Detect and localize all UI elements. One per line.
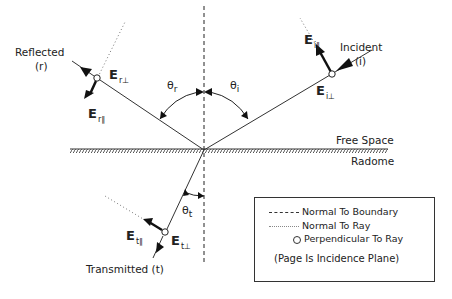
legend-item-normal-to-ray: Normal To Ray	[269, 220, 370, 231]
e-incident-perpendicular: Ei⊥	[316, 80, 335, 99]
reflected-label: Reflected	[15, 46, 64, 58]
e-incident-parallel: Ei∥	[304, 29, 320, 48]
theta-t-label: θt	[182, 204, 192, 217]
incident-symbol: (i)	[355, 55, 366, 67]
reflected-symbol: (r)	[35, 60, 48, 72]
theta-i-label: θi	[230, 79, 239, 92]
theta-r-label: θr	[167, 79, 177, 92]
dashed-line-swatch	[269, 212, 299, 213]
legend-item-normal-to-boundary: Normal To Boundary	[269, 206, 398, 217]
e-transmitted-perpendicular: Et⊥	[171, 230, 191, 249]
e-reflected-perpendicular: Er⊥	[109, 64, 129, 83]
legend-item-perpendicular-to-ray: Perpendicular To Ray	[293, 233, 403, 244]
incident-label: Incident	[340, 41, 382, 53]
e-reflected-parallel: Er∥	[88, 103, 105, 122]
e-transmitted-parallel: Et∥	[126, 225, 143, 244]
circle-dot-icon	[293, 236, 301, 244]
region-label-radome: Radome	[351, 155, 394, 167]
transmitted-label: Transmitted (t)	[86, 263, 164, 275]
legend-note: (Page Is Incidence Plane)	[274, 253, 399, 264]
dotted-line-swatch	[269, 226, 299, 227]
region-label-free-space: Free Space	[336, 134, 394, 146]
legend-box: Normal To Boundary Normal To Ray Perpend…	[254, 197, 435, 282]
